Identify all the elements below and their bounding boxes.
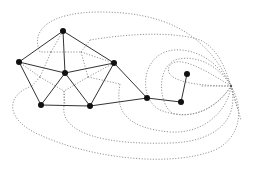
- dual-hub-fan: [200, 86, 241, 120]
- node-path-1: [144, 95, 150, 101]
- dual-loop-bottom-2: [64, 86, 233, 143]
- node-pendant: [184, 71, 190, 77]
- node-bottom-right: [87, 103, 93, 109]
- dual-spokes: [19, 31, 120, 106]
- dual-graph-edges: [13, 12, 241, 159]
- dual-pendant-loop: [168, 62, 231, 86]
- dual-outer-loop-mid: [90, 34, 231, 86]
- node-bottom-left: [38, 102, 44, 108]
- node-path-2: [178, 99, 184, 105]
- node-left: [16, 59, 22, 65]
- primal-graph-nodes: [16, 28, 232, 109]
- node-right: [111, 60, 117, 66]
- dual-loop-bottom-1: [119, 84, 231, 132]
- node-center: [62, 70, 68, 76]
- graph-diagram: [0, 0, 254, 177]
- node-top: [60, 28, 66, 34]
- dual-loop-right-1: [146, 50, 231, 115]
- dual-hub-node: [230, 85, 232, 87]
